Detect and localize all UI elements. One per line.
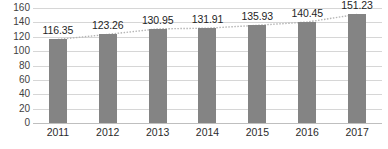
axis-baseline: [33, 123, 382, 124]
bar-slot: [282, 8, 332, 123]
y-axis-tick-label: 0: [0, 118, 30, 128]
bar-value-label: 135.93: [242, 11, 274, 22]
bar-2013[interactable]: [149, 29, 167, 123]
bar-2012[interactable]: [99, 34, 117, 123]
y-axis-tick-label: 120: [0, 32, 30, 42]
bar-2017[interactable]: [348, 14, 366, 123]
y-axis-tick-label: 80: [0, 61, 30, 71]
y-axis-tick-label: 60: [0, 75, 30, 85]
x-axis-tick-label: 2017: [345, 126, 368, 138]
x-axis-tick-label: 2014: [196, 126, 219, 138]
y-axis-tick-label: 140: [0, 17, 30, 27]
bar-value-label: 123.26: [92, 20, 124, 31]
bar-value-label: 130.95: [142, 15, 174, 26]
bar-value-label: 140.45: [291, 8, 323, 19]
bar-slot: [232, 8, 282, 123]
bar-value-label: 131.91: [192, 14, 224, 25]
plot-area: [33, 8, 382, 123]
y-axis-tick-label: 160: [0, 3, 30, 13]
y-axis: 160140120100806040200: [0, 0, 30, 149]
bar-slot: [332, 8, 382, 123]
x-axis-tick-label: 2015: [246, 126, 269, 138]
bar-chart: 160140120100806040200 116.35123.26130.95…: [0, 0, 388, 149]
bar-2016[interactable]: [298, 22, 316, 123]
bar-2015[interactable]: [248, 25, 266, 123]
bar-value-label: 116.35: [43, 25, 74, 36]
x-axis-tick-label: 2016: [296, 126, 319, 138]
bar-2014[interactable]: [198, 28, 216, 123]
bar-value-label: 151.23: [341, 0, 373, 11]
x-axis-tick-label: 2013: [146, 126, 169, 138]
y-axis-tick-label: 20: [0, 104, 30, 114]
x-axis-tick-label: 2011: [47, 126, 70, 138]
bar-2011[interactable]: [49, 39, 67, 123]
x-axis-tick-label: 2012: [96, 126, 119, 138]
x-axis: 2011201220132014201520162017: [33, 126, 382, 146]
bar-slot: [183, 8, 233, 123]
y-axis-tick-label: 100: [0, 46, 30, 56]
y-axis-tick-label: 40: [0, 89, 30, 99]
bar-series: [33, 8, 382, 123]
